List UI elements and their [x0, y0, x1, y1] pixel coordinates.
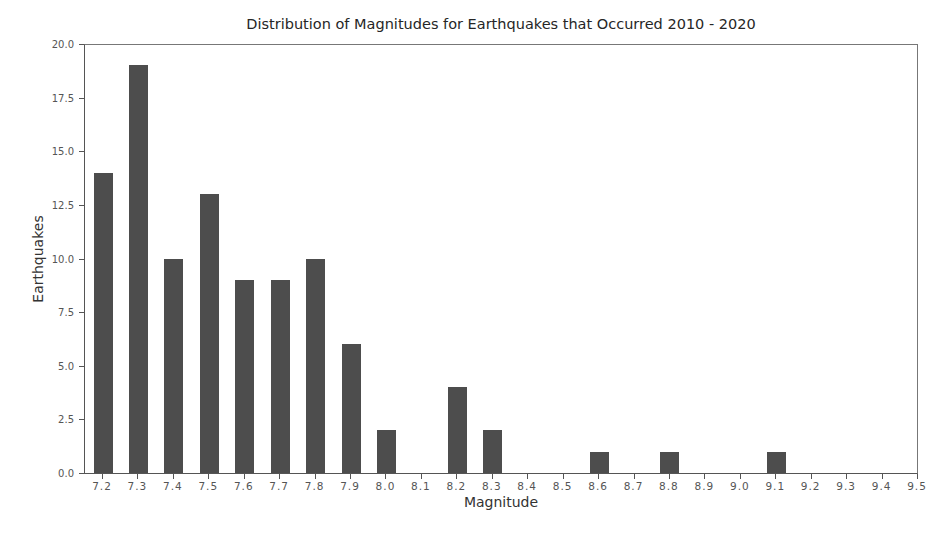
x-tick-label: 9.0: [725, 480, 755, 492]
x-tick-mark: [846, 474, 847, 479]
x-tick-mark: [279, 474, 280, 479]
x-tick-label: 8.9: [689, 480, 719, 492]
bar-7.2: [94, 173, 113, 473]
x-tick-label: 8.8: [654, 480, 684, 492]
y-tick-label: 5.0: [28, 360, 82, 371]
y-tick-label: 7.5: [28, 307, 82, 318]
x-tick-mark: [704, 474, 705, 479]
x-tick-label: 9.2: [796, 480, 826, 492]
x-tick-mark: [917, 474, 918, 479]
bar-9.1: [767, 452, 786, 473]
x-tick-mark: [811, 474, 812, 479]
y-tick-label: 0.0: [28, 468, 82, 479]
bar-8.2: [448, 387, 467, 473]
x-tick-mark: [492, 474, 493, 479]
y-tick-label: 10.0: [28, 253, 82, 264]
x-tick-label: 8.0: [370, 480, 400, 492]
x-tick-label: 7.3: [122, 480, 152, 492]
x-tick-mark: [882, 474, 883, 479]
x-tick-mark: [244, 474, 245, 479]
bar-7.3: [129, 65, 148, 473]
plot-area: [84, 44, 918, 474]
x-tick-label: 9.4: [867, 480, 897, 492]
chart-title: Distribution of Magnitudes for Earthquak…: [84, 16, 918, 32]
x-tick-mark: [775, 474, 776, 479]
x-axis-label: Magnitude: [84, 494, 918, 510]
x-tick-mark: [598, 474, 599, 479]
x-tick-label: 8.1: [406, 480, 436, 492]
y-tick-label: 2.5: [28, 414, 82, 425]
x-tick-mark: [740, 474, 741, 479]
x-tick-label: 8.5: [548, 480, 578, 492]
x-tick-mark: [634, 474, 635, 479]
x-tick-label: 7.7: [264, 480, 294, 492]
bar-8.6: [590, 452, 609, 473]
x-tick-mark: [669, 474, 670, 479]
x-tick-label: 7.6: [229, 480, 259, 492]
x-tick-mark: [385, 474, 386, 479]
x-tick-label: 7.5: [193, 480, 223, 492]
x-tick-mark: [421, 474, 422, 479]
bar-7.6: [235, 280, 254, 473]
bar-7.5: [200, 194, 219, 473]
x-tick-mark: [527, 474, 528, 479]
bar-8.8: [660, 452, 679, 473]
x-tick-label: 9.5: [902, 480, 932, 492]
x-tick-label: 8.7: [619, 480, 649, 492]
x-tick-mark: [173, 474, 174, 479]
x-tick-label: 8.2: [441, 480, 471, 492]
x-tick-label: 7.8: [300, 480, 330, 492]
x-tick-mark: [102, 474, 103, 479]
x-tick-mark: [137, 474, 138, 479]
bar-7.9: [342, 344, 361, 473]
bar-7.4: [164, 259, 183, 474]
x-tick-mark: [315, 474, 316, 479]
y-tick-label: 15.0: [28, 146, 82, 157]
x-tick-label: 7.2: [87, 480, 117, 492]
x-tick-label: 8.3: [477, 480, 507, 492]
bar-8.3: [483, 430, 502, 473]
y-tick-label: 20.0: [28, 39, 82, 50]
y-tick-label: 12.5: [28, 199, 82, 210]
x-tick-label: 9.1: [760, 480, 790, 492]
x-tick-mark: [456, 474, 457, 479]
x-tick-label: 8.6: [583, 480, 613, 492]
x-tick-label: 7.9: [335, 480, 365, 492]
x-tick-label: 9.3: [831, 480, 861, 492]
bar-8.0: [377, 430, 396, 473]
bar-7.7: [271, 280, 290, 473]
x-tick-mark: [208, 474, 209, 479]
x-tick-mark: [563, 474, 564, 479]
bar-7.8: [306, 259, 325, 474]
x-tick-label: 7.4: [158, 480, 188, 492]
x-tick-mark: [350, 474, 351, 479]
y-tick-label: 17.5: [28, 92, 82, 103]
x-tick-label: 8.4: [512, 480, 542, 492]
